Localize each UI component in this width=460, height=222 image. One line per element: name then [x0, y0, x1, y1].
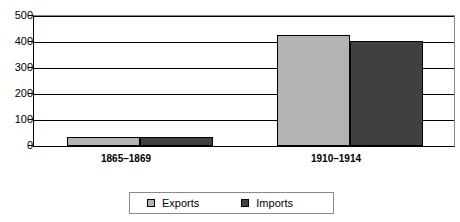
bar-chart: 500 400 300 200 100 0 1865–1869 1910–191…: [0, 0, 460, 222]
legend-swatch-exports-icon: [147, 199, 155, 207]
category-label-1910-1914: 1910–1914: [276, 153, 396, 165]
legend-label-imports: Imports: [256, 198, 293, 209]
y-axis-label-0: 0: [3, 140, 33, 151]
legend-swatch-imports-icon: [241, 199, 249, 207]
y-axis-label-100: 100: [3, 114, 33, 125]
bar-exports-1865-1869: [67, 137, 140, 146]
legend: Exports Imports: [129, 192, 334, 214]
bar-imports-1910-1914: [350, 41, 423, 146]
y-axis: 500 400 300 200 100 0: [0, 15, 33, 147]
bars-layer: [34, 16, 454, 146]
legend-label-exports: Exports: [162, 198, 199, 209]
legend-item-imports: Imports: [241, 198, 293, 209]
y-axis-label-200: 200: [3, 88, 33, 99]
legend-item-exports: Exports: [147, 198, 199, 209]
bar-imports-1865-1869: [140, 137, 213, 146]
y-axis-label-300: 300: [3, 62, 33, 73]
y-axis-label-500: 500: [3, 10, 33, 21]
y-axis-label-400: 400: [3, 36, 33, 47]
bar-exports-1910-1914: [277, 35, 350, 146]
category-label-1865-1869: 1865–1869: [66, 153, 186, 165]
